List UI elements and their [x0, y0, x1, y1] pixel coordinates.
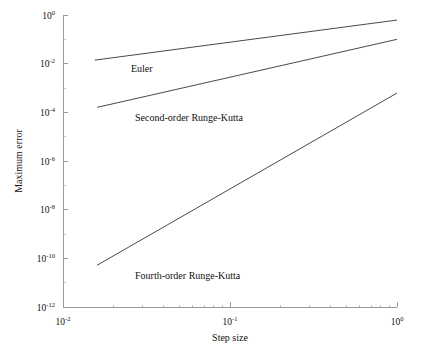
line-chart: 10-210-110010010-210-410-610-810-1010-12…	[0, 0, 438, 351]
axes-group	[63, 15, 397, 307]
tick-label: 10-12	[37, 301, 55, 313]
tick-label: 10-2	[40, 57, 55, 69]
tick-label: 10-1	[223, 315, 238, 327]
ticks-group	[63, 15, 397, 307]
y-axis-title: Maximum error	[13, 129, 24, 193]
tick-label: 100	[42, 9, 55, 21]
tick-label: 10-2	[56, 315, 71, 327]
series-label: Second-order Runge-Kutta	[135, 112, 244, 123]
tick-label: 10-10	[37, 252, 55, 264]
data-series-group	[95, 20, 397, 265]
series-label: Euler	[131, 63, 153, 74]
x-axis-title: Step size	[212, 332, 248, 343]
tick-label: 10-4	[40, 106, 56, 118]
tick-label: 10-8	[40, 203, 55, 215]
figure-container: 10-210-110010010-210-410-610-810-1010-12…	[0, 0, 438, 351]
series-line-1	[95, 20, 397, 60]
tick-label: 10-6	[40, 155, 56, 167]
tick-label: 100	[391, 315, 404, 327]
series-label: Fourth-order Runge-Kutta	[135, 270, 241, 281]
